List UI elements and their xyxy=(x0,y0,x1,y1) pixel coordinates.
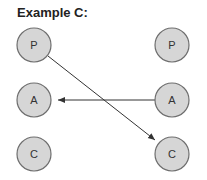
node-left-c: C xyxy=(17,137,51,171)
node-label: C xyxy=(30,148,38,160)
node-right-a: A xyxy=(155,83,189,117)
node-left-p: P xyxy=(17,28,51,62)
node-label: C xyxy=(168,148,176,160)
node-label: A xyxy=(168,94,176,106)
node-label: A xyxy=(30,94,38,106)
node-label: P xyxy=(168,39,175,51)
node-left-a: A xyxy=(17,83,51,117)
edge-left-p-to-right-c xyxy=(48,56,155,140)
node-right-c: C xyxy=(155,137,189,171)
node-label: P xyxy=(30,39,37,51)
node-right-p: P xyxy=(155,28,189,62)
diagram-canvas: P A C P A C xyxy=(0,0,207,180)
